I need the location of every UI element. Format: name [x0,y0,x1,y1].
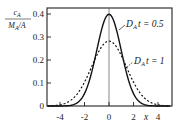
x-tick-label: 4 [156,112,161,122]
annotation-series-1: DAt = 1 [127,56,164,67]
x-tick-label: -4 [56,112,64,122]
x-tick-label: 0 [107,112,112,122]
x-axis-label: x [143,112,149,122]
y-tick-label: 0.2 [33,55,44,65]
x-tick-label: 2 [131,112,136,122]
svg-text:DAt = 0.5: DAt = 0.5 [125,19,164,30]
chart: 00.10.20.30.4 -4-2024 cA MA/A x DAt = 0.… [0,0,182,127]
svg-text:cA: cA [13,8,21,18]
y-tick-label: 0.3 [33,32,45,42]
svg-text:DAt = 1: DAt = 1 [133,56,164,67]
svg-text:MA/A: MA/A [7,21,26,31]
y-tick-label: 0.1 [33,78,44,88]
annotation-series-0: DAt = 0.5 [119,19,164,30]
y-axis-ticks: 00.10.20.30.4 [33,9,51,111]
y-axis-label: cA MA/A [5,8,31,31]
x-tick-label: -2 [81,112,89,122]
y-tick-label: 0 [40,101,45,111]
y-tick-label: 0.4 [33,9,45,19]
